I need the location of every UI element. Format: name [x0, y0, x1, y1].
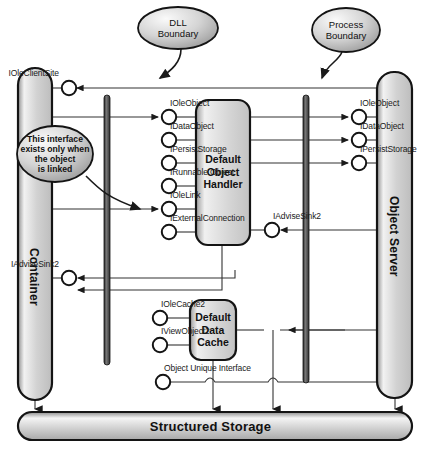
iface-object-unique-circle[interactable] [156, 375, 170, 389]
iface-iexternalconnection-label: IExternalConnection [170, 213, 245, 223]
iface-ipersiststorage-left-label: IPersistStorage [170, 144, 227, 154]
iface-iexternalconnection-circle[interactable] [162, 225, 176, 239]
iface-iviewobject2-label: IViewObject2 [161, 326, 210, 336]
link-note-text: This interface exists only when the obje… [17, 134, 93, 174]
link-note-leader [86, 176, 140, 209]
iface-ioleclientsite-circle[interactable] [62, 81, 76, 95]
container-label: Container [27, 248, 41, 306]
iface-iadvisesink2-container-circle[interactable] [62, 271, 76, 285]
iface-ioleobject-left-label: IOleObject [170, 98, 209, 108]
process-leader [322, 52, 342, 78]
container-pillar[interactable] [18, 68, 52, 400]
diagram-svg [0, 0, 421, 449]
iface-ioleobject-right-label: IOleObject [360, 98, 399, 108]
process-boundary-bar [303, 95, 309, 383]
iface-iolecache2-circle[interactable] [153, 311, 167, 325]
iface-iadvisesink2-container-label: IAdviseSink2 [11, 259, 59, 269]
process-boundary-text: Process Boundary [312, 19, 380, 41]
iface-iadvisesink2-handler-label: IAdviseSink2 [273, 211, 321, 221]
diagram-canvas: Container Object Server Default Object H… [0, 0, 421, 449]
iface-idataobject-right-label: IDataObject [360, 121, 404, 131]
iface-idataobject-left-label: IDataObject [170, 121, 214, 131]
iface-ipersiststorage-right-label: IPersistStorage [360, 144, 417, 154]
iface-iolecache2-label: IOleCache2 [161, 299, 205, 309]
dll-boundary-bar [104, 95, 110, 365]
iface-ipersiststorage-right-circle[interactable] [352, 156, 366, 170]
object-server-label: Object Server [387, 196, 401, 277]
iface-object-unique-label: Object Unique Interface [164, 363, 251, 373]
structured-storage-label: Structured Storage [0, 419, 421, 434]
iface-iadvisesink2-handler-circle[interactable] [265, 223, 279, 237]
iface-irunnableobject-label: IRunnable Object [170, 167, 234, 177]
iface-iolelink-label: IOleLink [170, 190, 200, 200]
dll-boundary-text: DLL Boundary [138, 17, 218, 39]
dll-leader [160, 49, 181, 78]
iface-ioleclientsite-label: IOleClientSite [8, 68, 59, 78]
iface-iviewobject2-circle[interactable] [153, 338, 167, 352]
